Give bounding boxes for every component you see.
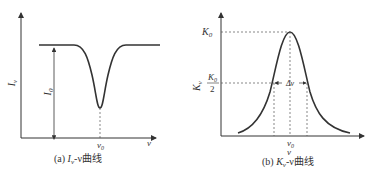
panel-a-absorption-dip-curve [39, 45, 160, 108]
panel-a-i0-label: I0 [42, 88, 55, 96]
diagram-canvas: Iν I0 ν0 ν (a) Iν-ν曲线 Δν K0 Kν K0 2 ν0 ν… [0, 0, 371, 173]
panel-a-intensity-curve: Iν I0 ν0 ν (a) Iν-ν曲线 [6, 13, 160, 166]
panel-a-nu0-tick: ν0 [97, 140, 104, 151]
panel-b-half-denominator: 2 [210, 84, 215, 94]
panel-b-y-label: Kν [191, 80, 204, 92]
panel-b-delta-nu-label: Δν [285, 79, 295, 88]
panel-b-caption: (b) Kν-ν曲线 [262, 155, 314, 169]
panel-a-x-label: ν [147, 138, 151, 148]
panel-a-caption: (a) Iν-ν曲线 [54, 152, 102, 166]
panel-b-absorption-coefficient-curve: Δν K0 Kν K0 2 ν0 ν (b) Kν-ν曲线 [191, 13, 364, 169]
panel-b-k0-label: K0 [201, 26, 213, 39]
panel-a-y-label: Iν [6, 79, 19, 87]
panel-b-half-numerator: K0 [207, 72, 217, 83]
